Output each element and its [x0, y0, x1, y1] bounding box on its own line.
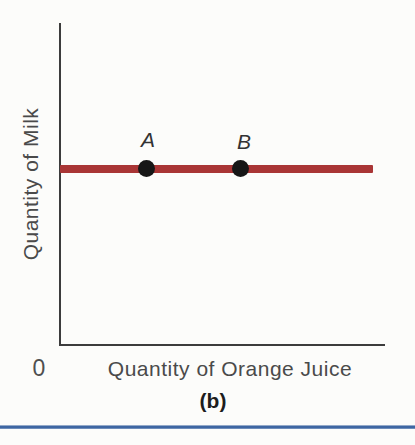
figure-caption: (b) — [200, 389, 227, 413]
x-axis-label: Quantity of Orange Juice — [108, 357, 352, 381]
point-b-marker — [232, 160, 249, 177]
point-a-label: A — [141, 129, 155, 150]
y-axis-line — [59, 23, 61, 346]
origin-label: 0 — [33, 355, 46, 382]
figure-panel: A B Quantity of Milk 0 Quantity of Orang… — [0, 0, 415, 445]
point-a-marker — [138, 160, 155, 177]
y-axis-label: Quantity of Milk — [19, 108, 43, 261]
indifference-curve — [60, 165, 373, 173]
x-axis-line — [59, 344, 385, 346]
point-b-label: B — [237, 131, 251, 152]
bottom-divider-line — [0, 425, 415, 429]
